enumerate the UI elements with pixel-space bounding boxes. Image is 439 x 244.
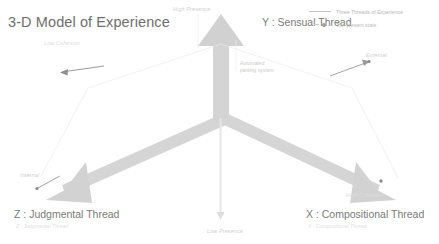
- present-state-marker: [379, 179, 382, 182]
- axis-label-z: Z : Judgmental Thread: [14, 208, 119, 220]
- axis-y-negative: [217, 118, 225, 220]
- diagram-canvas: 3-D Model of Experience Y : Sensual Thre…: [0, 0, 439, 244]
- axis-sublabel-x: X : Compositional Thread: [308, 223, 367, 229]
- legend: Three Threads of Experience The present …: [304, 6, 403, 32]
- legend-line-swatch-icon: [304, 11, 336, 12]
- annotation-line-2: parking system: [240, 67, 274, 74]
- annotation-automated-parking: Automated parking system: [240, 60, 274, 75]
- tip-external: External: [366, 52, 387, 58]
- pointer-internal: [35, 176, 60, 190]
- legend-label-present-state: The present state: [336, 22, 376, 28]
- tip-low-cohesion: Low Cohesion: [44, 40, 80, 46]
- legend-dot-swatch-icon: [304, 23, 336, 27]
- page-title: 3-D Model of Experience: [8, 14, 170, 30]
- legend-item-present-state: The present state: [304, 19, 403, 30]
- legend-label-threads: Three Threads of Experience: [336, 9, 403, 15]
- axis-z-arrow: [46, 113, 228, 203]
- annotation-line-1: Automated: [240, 60, 274, 67]
- legend-item-threads: Three Threads of Experience: [304, 6, 403, 17]
- pointer-low-cohesion: [60, 66, 104, 76]
- axis-label-x: X : Compositional Thread: [306, 208, 424, 220]
- tip-internal: Internal: [20, 172, 39, 178]
- axis-sublabel-z: Z : Judgmental Thread: [16, 223, 68, 229]
- axis-x-arrow: [222, 113, 396, 203]
- axis-y-arrow: [198, 14, 244, 122]
- tip-low-presence: Low Presence: [207, 228, 243, 234]
- tip-high-cohesion: High Cohesion: [346, 192, 383, 198]
- pointer-external: [330, 60, 371, 77]
- tip-high-presence: High Presence: [173, 6, 210, 12]
